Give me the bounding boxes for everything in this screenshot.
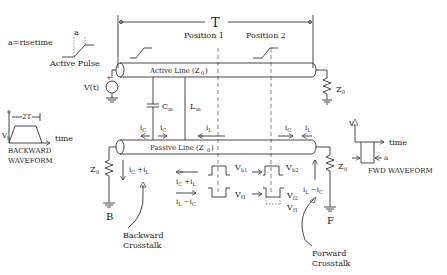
svg-text:0: 0 <box>342 89 345 95</box>
active-termination: Z 0 <box>316 70 345 104</box>
active-pulse-label: Active Pulse <box>49 59 100 68</box>
forward-termination: Z 0 F iL −iC Forward Crosstalk <box>302 147 351 268</box>
svg-text:Passive Line (Z: Passive Line (Z <box>150 144 204 152</box>
svg-text:a: a <box>74 28 79 37</box>
svg-text:iL: iL <box>305 124 311 133</box>
svg-text:m: m <box>168 106 173 112</box>
svg-text:b1: b1 <box>241 167 247 173</box>
svg-text:b: b <box>7 135 10 141</box>
svg-text:iC: iC <box>160 124 166 133</box>
backward-waveform-inset: 2T V b time BACKWARD WAVEFORM <box>1 111 73 165</box>
svg-text:b2: b2 <box>292 167 298 173</box>
voltage-source: + V(t) <box>83 70 118 102</box>
svg-text:WAVEFORM: WAVEFORM <box>8 157 53 165</box>
svg-text:iL −iC: iL −iC <box>303 186 323 195</box>
svg-text:BACKWARD: BACKWARD <box>8 147 52 155</box>
svg-text:0: 0 <box>201 70 204 76</box>
svg-text:f2: f2 <box>293 195 298 201</box>
risetime-label: a=risetime <box>8 38 53 47</box>
svg-text:m: m <box>196 106 201 112</box>
svg-text:iL −iC: iL −iC <box>176 198 196 207</box>
svg-text:): ) <box>205 67 208 75</box>
active-pulse: a=risetime a Active Pulse <box>8 28 100 68</box>
period-dimension: T <box>118 15 313 68</box>
svg-text:+: + <box>106 74 112 82</box>
svg-text:f1: f1 <box>293 207 298 213</box>
svg-text:V: V <box>286 191 293 200</box>
svg-text:V: V <box>286 203 293 212</box>
position-1-label: Position 1 <box>184 31 224 40</box>
passive-line: Passive Line (Z 0 ) <box>116 140 316 154</box>
forward-node: F <box>327 215 334 226</box>
period-label: T <box>211 15 220 30</box>
svg-text:iL: iL <box>206 124 212 133</box>
svg-text:V: V <box>234 190 241 199</box>
svg-text:Backward: Backward <box>123 231 164 240</box>
svg-text:Crosstalk: Crosstalk <box>312 259 351 268</box>
svg-text:FWD WAVEFORM: FWD WAVEFORM <box>368 167 433 175</box>
source-label: V(t) <box>83 83 99 92</box>
svg-text:iC +iL: iC +iL <box>129 166 149 175</box>
backward-termination: Z 0 B iC +iL Backward Crosstalk <box>90 147 164 250</box>
svg-text:iC +iL: iC +iL <box>176 178 196 187</box>
svg-text:iC: iC <box>140 124 146 133</box>
passive-currents: iC iC iL iC iL <box>140 124 312 136</box>
svg-text:V: V <box>285 163 292 172</box>
svg-text:iC: iC <box>285 124 291 133</box>
svg-text:0: 0 <box>96 169 99 175</box>
svg-text:f1: f1 <box>241 194 246 200</box>
svg-text:Forward: Forward <box>312 249 346 258</box>
active-line: Active Line (Z 0 ) <box>116 63 316 77</box>
backward-node: B <box>106 211 113 222</box>
fwd-waveform-inset: V time a FWD WAVEFORM <box>348 119 433 175</box>
position-2-label: Position 2 <box>246 31 286 40</box>
position-waveforms: iC +iL iL −iC V b1 V b2 V f1 V f2 V f1 <box>176 163 298 213</box>
mutual-coupling: C m L m <box>147 77 201 140</box>
svg-text:time: time <box>55 134 73 143</box>
svg-text:2T: 2T <box>22 113 31 121</box>
svg-text:Active Line (Z: Active Line (Z <box>149 67 200 75</box>
svg-text:0: 0 <box>344 166 347 172</box>
svg-text:): ) <box>211 144 214 152</box>
svg-text:V: V <box>234 163 241 172</box>
svg-text:time: time <box>389 138 407 147</box>
svg-text:0: 0 <box>207 147 210 153</box>
svg-text:a: a <box>384 154 388 162</box>
svg-text:Crosstalk: Crosstalk <box>123 241 162 250</box>
crosstalk-diagram: T a=risetime a Active Pulse Position 1 P… <box>0 0 447 275</box>
